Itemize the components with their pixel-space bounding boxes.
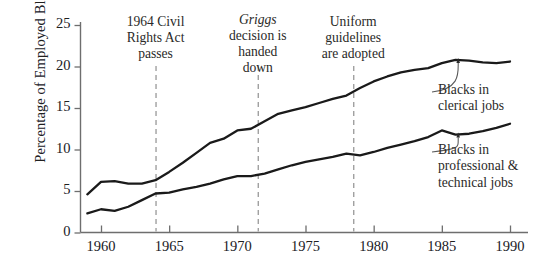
y-tick-label-10: 10 [41,140,71,157]
y-tick-label-25: 25 [41,15,71,32]
y-tick-label-20: 20 [41,57,71,74]
annotation-line: guidelines [283,30,423,46]
annotation-uniform-guidelines: Uniformguidelinesare adopted [283,14,423,62]
series-label-professional: Blacks inprofessional &technical jobs [438,142,518,191]
x-tick-label-1985: 1985 [412,238,472,255]
y-axis-ticks [75,26,81,234]
annotation-line: are adopted [283,46,423,62]
series-label-line: Blacks in [438,142,518,158]
series-label-clerical: Blacks inclerical jobs [438,82,504,115]
annotation-line: Uniform [283,14,423,30]
line-chart: Percentage of Employed Blacks 0510152025… [0,0,545,274]
annotation-line: down [188,60,328,76]
series-label-line: technical jobs [438,175,518,191]
y-tick-label-5: 5 [41,181,71,198]
event-marker-lines [156,66,354,232]
x-tick-label-1975: 1975 [276,238,336,255]
x-tick-label-1960: 1960 [71,238,131,255]
x-tick-label-1980: 1980 [344,238,404,255]
y-tick-label-0: 0 [41,223,71,240]
series-label-line: Blacks in [438,82,504,98]
x-tick-label-1970: 1970 [207,238,267,255]
x-tick-label-1990: 1990 [480,238,540,255]
y-tick-label-15: 15 [41,98,71,115]
series-label-line: professional & [438,158,518,174]
x-axis-ticks [102,226,511,233]
series-label-line: clerical jobs [438,98,504,114]
x-tick-label-1965: 1965 [139,238,199,255]
